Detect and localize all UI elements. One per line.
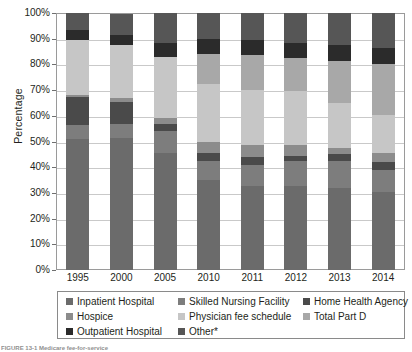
y-axis-tick-label: 10% (4, 239, 50, 249)
legend-item[interactable]: Other* (178, 323, 218, 339)
bar-segment (110, 98, 133, 102)
bar-segment (66, 125, 89, 139)
chart-legend: Inpatient HospitalSkilled Nursing Facili… (57, 291, 405, 339)
figure-caption: FIGURE 13-1 Medicare fee-for-service (1, 345, 231, 352)
bar-segment (197, 13, 220, 39)
bar-segment (284, 161, 307, 187)
bar-segment (66, 139, 89, 270)
bar-segment (372, 153, 395, 162)
bar-segment (197, 180, 220, 270)
legend-item[interactable]: Total Part D (303, 308, 366, 324)
legend-label: Inpatient Hospital (77, 296, 154, 307)
legend-color-swatch (66, 328, 73, 335)
bar-segment (284, 91, 307, 145)
bar-segment (110, 45, 133, 98)
bar-segment (284, 43, 307, 58)
y-axis-tick-label: 60% (4, 111, 50, 121)
bar-segment (284, 186, 307, 270)
y-axis-tick-mark (52, 167, 56, 168)
y-axis-tick-mark (52, 39, 56, 40)
legend-item[interactable]: Skilled Nursing Facility (178, 293, 290, 309)
legend-item[interactable]: Outpatient Hospital (66, 323, 162, 339)
bar-stack (241, 13, 264, 270)
bar-segment (66, 97, 89, 125)
bar-segment (66, 40, 89, 95)
y-axis-tick-mark (52, 270, 56, 271)
y-axis-tick-label: 40% (4, 162, 50, 172)
legend-color-swatch (303, 298, 310, 305)
y-axis-tick-mark (52, 90, 56, 91)
bar-segment (110, 138, 133, 270)
legend-item[interactable]: Inpatient Hospital (66, 293, 154, 309)
bar-segment (154, 43, 177, 57)
x-axis-tick-labels: 19952000200520102011201220132014 (56, 272, 405, 286)
bar-segment (372, 170, 395, 192)
bar-segment (284, 13, 307, 43)
bar-segment (284, 156, 307, 161)
bar-segment (372, 13, 395, 48)
bar-segment (241, 157, 264, 165)
bar-segment (328, 13, 351, 45)
y-axis-tick-label: 0% (4, 265, 50, 275)
x-axis-tick-label: 2005 (143, 272, 187, 284)
legend-color-swatch (178, 298, 185, 305)
y-axis-tick-mark (52, 219, 56, 220)
y-axis-tick-mark (52, 116, 56, 117)
legend-label: Outpatient Hospital (77, 326, 162, 337)
y-axis-tick-label: 80% (4, 59, 50, 69)
bar-segment (328, 161, 351, 188)
legend-color-swatch (66, 313, 73, 320)
bar-segment (241, 90, 264, 145)
bar-segment (328, 188, 351, 270)
plot-area (56, 13, 405, 270)
legend-label: Total Part D (314, 311, 366, 322)
bar-segment (154, 153, 177, 270)
y-axis-tick-mark (52, 193, 56, 194)
legend-row: Outpatient HospitalOther* (58, 323, 404, 339)
x-axis-tick-label: 2012 (274, 272, 318, 284)
bar-group (56, 13, 405, 270)
y-axis-tick-mark (52, 244, 56, 245)
bar-segment (154, 124, 177, 132)
bar-segment (328, 61, 351, 103)
legend-color-swatch (66, 298, 73, 305)
bar-stack (328, 13, 351, 270)
y-axis-tick-label: 90% (4, 34, 50, 44)
bar-segment (197, 161, 220, 180)
y-axis-tick-mark (52, 13, 56, 14)
bar-segment (328, 45, 351, 60)
bar-segment (241, 13, 264, 40)
y-axis-tick-mark (52, 142, 56, 143)
bar-segment (66, 30, 89, 40)
legend-item[interactable]: Physician fee schedule (178, 308, 291, 324)
bar-segment (241, 55, 264, 90)
bar-segment (154, 118, 177, 123)
bar-segment (197, 153, 220, 161)
x-axis-tick-label: 2014 (361, 272, 405, 284)
legend-label: Other* (189, 326, 218, 337)
legend-label: Physician fee schedule (189, 311, 291, 322)
figure-stacked-bar-chart: Percentage 0%10%20%30%40%50%60%70%80%90%… (0, 0, 412, 352)
bar-segment (328, 154, 351, 160)
legend-row: Inpatient HospitalSkilled Nursing Facili… (58, 293, 404, 309)
bar-stack (110, 13, 133, 270)
legend-color-swatch (303, 313, 310, 320)
x-axis-tick-label: 2000 (99, 272, 143, 284)
x-axis-tick-label: 2011 (230, 272, 274, 284)
x-axis-tick-label: 1995 (56, 272, 100, 284)
y-axis-tick-label: 50% (4, 137, 50, 147)
legend-row: HospicePhysician fee scheduleTotal Part … (58, 308, 404, 324)
legend-color-swatch (178, 328, 185, 335)
legend-item[interactable]: Hospice (66, 308, 113, 324)
bar-segment (241, 165, 264, 187)
legend-label: Skilled Nursing Facility (189, 296, 290, 307)
bar-segment (154, 57, 177, 119)
legend-item[interactable]: Home Health Agency (303, 293, 408, 309)
y-axis-tick-mark (52, 64, 56, 65)
bar-segment (241, 186, 264, 270)
y-axis-tick-label: 30% (4, 188, 50, 198)
bar-segment (110, 35, 133, 45)
bar-segment (197, 39, 220, 54)
y-axis-tick-label: 70% (4, 85, 50, 95)
bar-stack (284, 13, 307, 270)
